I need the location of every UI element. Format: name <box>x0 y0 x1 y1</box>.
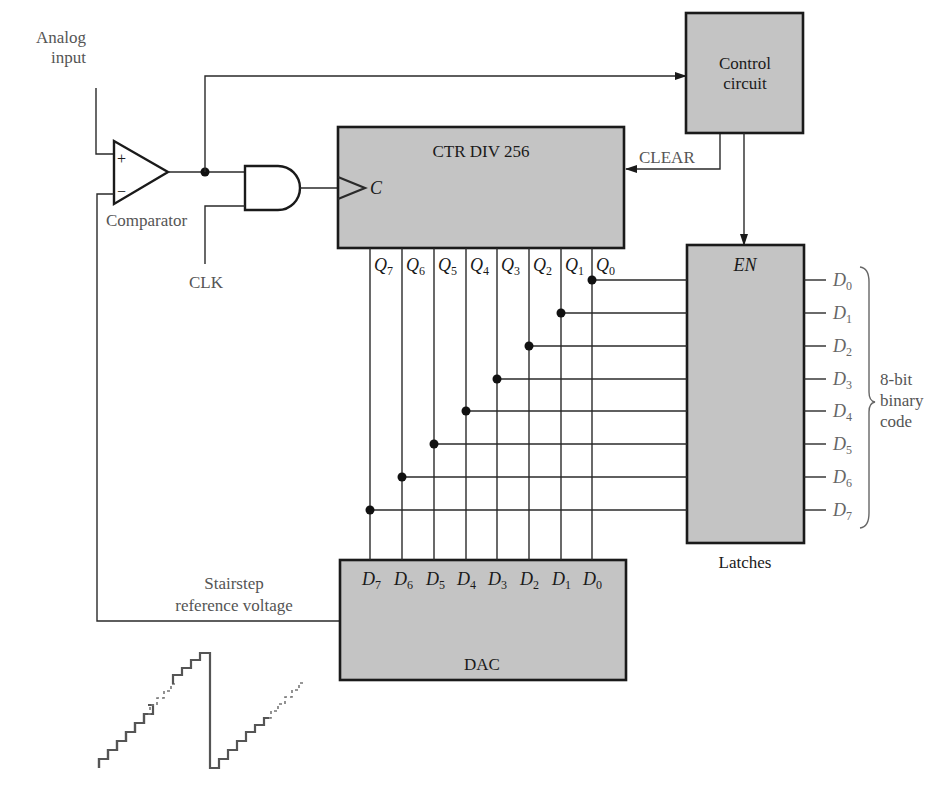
counter-block: CTR DIV 256 C <box>338 127 624 248</box>
and-gate-icon <box>245 166 300 210</box>
latch-d-label: D2 <box>832 336 852 359</box>
latch-d-label: D4 <box>832 401 852 424</box>
comparator-plus-sign: + <box>117 150 126 167</box>
q-label: Q3 <box>501 255 520 278</box>
stairstep-waveform-icon <box>99 653 303 768</box>
latches-label: Latches <box>719 553 772 572</box>
analog-input-label-2: input <box>51 48 86 67</box>
bus-vertical <box>370 248 592 560</box>
tap-dot <box>366 506 375 515</box>
q-label: Q7 <box>374 255 393 278</box>
tap-dot <box>493 375 502 384</box>
analog-input: Analog input <box>36 28 114 154</box>
tap-dot <box>462 407 471 416</box>
comparator: + − Comparator <box>106 141 188 230</box>
adc-diagram: Analog input + − Comparator Stairstep re… <box>0 0 950 798</box>
q-label: Q4 <box>470 255 489 278</box>
comparator-minus-sign: − <box>117 183 126 200</box>
latch-d-label: D7 <box>832 500 852 523</box>
tap-dot <box>557 309 566 318</box>
counter-title: CTR DIV 256 <box>433 142 530 161</box>
latch-d-label: D6 <box>832 467 852 490</box>
analog-input-wire <box>96 88 114 154</box>
latches-enable-label: EN <box>732 255 757 275</box>
q-label: Q6 <box>406 255 425 278</box>
counter-output-labels: Q7 Q6 Q5 Q4 Q3 Q2 Q1 Q0 <box>374 255 615 278</box>
q-label: Q0 <box>596 255 615 278</box>
latches-box <box>687 245 804 543</box>
stairstep-label-2: reference voltage <box>175 596 293 615</box>
analog-input-label: Analog <box>36 28 87 47</box>
code-label-3: code <box>880 412 912 431</box>
code-label-2: binary <box>880 391 924 410</box>
control-circuit-block: Control circuit <box>686 13 803 133</box>
control-circuit-box <box>686 13 803 133</box>
tap-dot <box>398 473 407 482</box>
q-label: Q5 <box>438 255 457 278</box>
bus-horizontal <box>366 276 688 515</box>
latch-d-label: D0 <box>832 270 852 293</box>
stairstep-feedback-wire <box>97 194 340 621</box>
latch-outputs: D0 D1 D2 D3 D4 D5 D6 D7 <box>804 270 852 523</box>
clk-label: CLK <box>189 273 224 292</box>
brace-icon <box>860 267 875 528</box>
comparator-label: Comparator <box>106 211 188 230</box>
latch-d-label: D3 <box>832 369 852 392</box>
latch-d-label: D5 <box>832 434 852 457</box>
tap-dot <box>525 342 534 351</box>
clk-wire <box>205 206 245 264</box>
and-gate <box>245 166 300 210</box>
stairstep-label: Stairstep <box>204 574 264 593</box>
clear-label: CLEAR <box>639 148 695 167</box>
clock-input-label: C <box>370 178 383 198</box>
q-label: Q2 <box>533 255 552 278</box>
code-label: 8-bit <box>880 370 912 389</box>
latch-d-label: D1 <box>832 303 852 326</box>
tap-dot <box>588 276 597 285</box>
q-label: Q1 <box>565 255 584 278</box>
control-circuit-label: Control <box>719 54 771 73</box>
dac-title: DAC <box>464 655 500 674</box>
latches-block: EN Latches <box>687 245 804 572</box>
control-circuit-label-2: circuit <box>723 74 767 93</box>
tap-dot <box>430 440 439 449</box>
